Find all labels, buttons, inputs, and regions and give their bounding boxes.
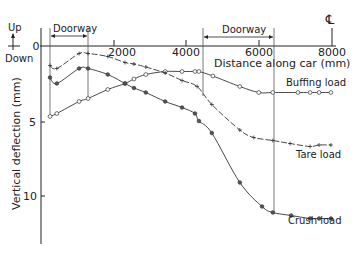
centerline-symbol: ℄ (325, 12, 335, 27)
data-point (180, 106, 184, 110)
data-point (123, 61, 127, 65)
deflection-chart: 0 2000 4000 6000 8000 ℄ Distance along c… (0, 0, 356, 256)
x-tick-label: 2000 (108, 46, 136, 59)
series-label-buffing: Buffing load (286, 77, 346, 88)
data-point (252, 136, 256, 140)
data-point (308, 91, 312, 95)
data-point (55, 67, 59, 71)
data-point (144, 73, 148, 77)
data-point (296, 91, 300, 95)
data-point (48, 76, 52, 80)
data-point (197, 119, 201, 123)
data-point (271, 211, 275, 215)
data-point (329, 91, 333, 95)
data-point (132, 62, 136, 66)
doorway-label: Doorway (222, 24, 266, 35)
data-point (329, 143, 333, 147)
up-label: Up (8, 22, 22, 33)
data-point (144, 91, 148, 95)
data-point (77, 67, 81, 71)
data-point (144, 65, 148, 69)
data-point (55, 82, 59, 86)
y-tick-label: 5 (29, 116, 36, 129)
x-tick-label: 4000 (172, 46, 200, 59)
data-point (180, 79, 184, 83)
x-tick-label: 0 (33, 40, 40, 53)
data-point (193, 70, 197, 74)
data-point (257, 91, 261, 95)
down-label: Down (5, 53, 33, 64)
data-point (55, 112, 59, 116)
data-point (238, 181, 242, 185)
data-point (288, 142, 292, 146)
x-axis-label: Distance along car (mm) (214, 57, 350, 70)
data-point (86, 97, 90, 101)
data-point (238, 85, 242, 89)
data-point (123, 82, 127, 86)
data-point (211, 74, 215, 78)
y-tick-label: 10 (23, 190, 37, 203)
series-label-tare: Tare load (295, 149, 341, 160)
data-point (77, 52, 81, 56)
data-point (197, 70, 201, 74)
data-point (210, 131, 214, 135)
y-axis-label: Vertical deflection (mm) (10, 77, 23, 210)
series-label-crush: Crush load (288, 215, 342, 226)
data-point (193, 112, 197, 116)
up-arrow-head (11, 33, 15, 38)
data-point (317, 91, 321, 95)
doorway-label: Doorway (53, 23, 97, 34)
data-point (180, 70, 184, 74)
data-point (106, 88, 110, 92)
data-point (86, 67, 90, 71)
data-point (271, 91, 275, 95)
data-point (77, 100, 81, 104)
data-point (163, 100, 167, 104)
data-point (317, 143, 321, 147)
data-point (260, 205, 264, 209)
data-point (132, 86, 136, 90)
data-point (132, 77, 136, 81)
data-point (308, 145, 312, 149)
data-point (106, 73, 110, 77)
data-point (48, 115, 52, 119)
data-point (86, 52, 90, 56)
